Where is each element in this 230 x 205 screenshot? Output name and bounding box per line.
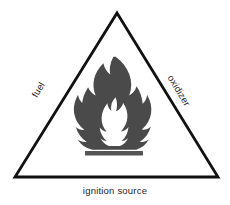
fire-triangle-diagram: fuel oxidizer ignition source — [0, 0, 230, 205]
fire-triangle-svg — [0, 0, 230, 205]
edge-label-ignition-source: ignition source — [0, 185, 230, 196]
flame-base-bar — [85, 151, 143, 156]
